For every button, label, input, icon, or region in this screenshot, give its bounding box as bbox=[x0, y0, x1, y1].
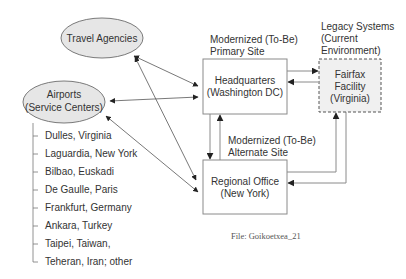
fairfax-label-line2: Facility bbox=[334, 81, 365, 92]
airport-list-item: Ankara, Turkey bbox=[45, 220, 112, 231]
fairfax-label-line1: Fairfax bbox=[335, 69, 366, 80]
file-caption: File: Goikoetxea_21 bbox=[231, 231, 301, 241]
legacy-line2: (Current bbox=[321, 33, 358, 44]
node-headquarters: Headquarters (Washington DC) bbox=[203, 59, 287, 114]
airport-list-item: Bilbao, Euskadi bbox=[45, 166, 114, 177]
fairfax-label-line3: (Virginia) bbox=[330, 93, 370, 104]
alternate-site-line1: Modernized (To-Be) bbox=[228, 135, 316, 146]
travel-agencies-label: Travel Agencies bbox=[67, 33, 138, 44]
airport-list-item: De Gaulle, Paris bbox=[45, 184, 118, 195]
headquarters-label-line2: (Washington DC) bbox=[207, 87, 283, 98]
architecture-diagram: Travel Agencies Airports (Service Center… bbox=[0, 0, 406, 279]
node-regional-office: Regional Office (New York) bbox=[203, 160, 287, 214]
edge-travel-regional bbox=[135, 57, 196, 180]
regional-office-label-line2: (New York) bbox=[221, 188, 270, 199]
node-airports: Airports (Service Centers) bbox=[23, 81, 105, 123]
primary-site-annotation: Modernized (To-Be) Primary Site bbox=[210, 34, 298, 57]
airports-label-line2: (Service Centers) bbox=[25, 102, 103, 113]
alternate-site-annotation: Modernized (To-Be) Alternate Site bbox=[228, 135, 316, 158]
legacy-line3: Environment) bbox=[321, 45, 380, 56]
airport-list-item: Frankfurt, Germany bbox=[45, 202, 132, 213]
legacy-annotation: Legacy Systems (Current Environment) bbox=[321, 21, 394, 56]
primary-site-line2: Primary Site bbox=[210, 46, 265, 57]
edge-airports-hq bbox=[110, 97, 198, 101]
airport-list-item: Dulles, Virginia bbox=[45, 130, 112, 141]
headquarters-label-line1: Headquarters bbox=[215, 75, 276, 86]
node-travel-agencies: Travel Agencies bbox=[61, 18, 143, 58]
edge-travel-hq bbox=[134, 56, 198, 86]
airport-list-item: Teheran, Iran; other bbox=[45, 256, 133, 267]
airport-list: Dulles, Virginia Laguardia, New York Bil… bbox=[33, 123, 138, 267]
alternate-site-line2: Alternate Site bbox=[228, 147, 288, 158]
airports-label-line1: Airports bbox=[47, 89, 81, 100]
airport-list-item: Taipei, Taiwan, bbox=[45, 238, 110, 249]
node-fairfax-facility: Fairfax Facility (Virginia) bbox=[319, 59, 381, 112]
legacy-line1: Legacy Systems bbox=[321, 21, 394, 32]
airport-list-item: Laguardia, New York bbox=[45, 148, 138, 159]
regional-office-label-line1: Regional Office bbox=[211, 176, 280, 187]
primary-site-line1: Modernized (To-Be) bbox=[210, 34, 298, 45]
